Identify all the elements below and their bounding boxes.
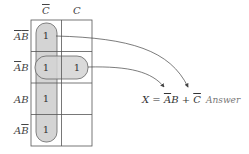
- row-header-a-b: AB: [14, 95, 29, 105]
- cell-r2-c0: 1: [41, 94, 51, 104]
- col-header-c: C: [73, 6, 81, 16]
- row-header-a-bbar: AB: [14, 126, 29, 136]
- cell-r1-c1: 1: [72, 63, 82, 73]
- cell-r0-c0: 1: [41, 31, 51, 41]
- kmap-graphics: [0, 0, 249, 154]
- karnaugh-map: C C AB AB AB AB 1 1 1 1 1 X = AB + C Ans…: [0, 0, 249, 154]
- row-header-abar-bbar: AB: [14, 32, 29, 42]
- arrow-a-bar-b: [88, 67, 164, 87]
- cell-r3-c0: 1: [41, 125, 51, 135]
- cell-r1-c0: 1: [41, 63, 51, 73]
- col-header-c-bar: C: [42, 6, 50, 16]
- boolean-equation: X = AB + C: [142, 94, 201, 105]
- row-header-abar-b: AB: [14, 63, 29, 73]
- answer-label: Answer: [206, 95, 240, 105]
